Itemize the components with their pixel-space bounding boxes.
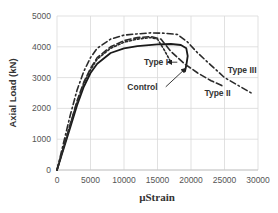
x-tick-label: 5000 — [81, 175, 100, 185]
series-type-iii — [57, 33, 251, 170]
series-control — [57, 44, 188, 170]
y-tick-label: 5000 — [32, 11, 51, 21]
annotation-type-ii: Type II — [204, 88, 230, 98]
annotation-type-i: Type I — [144, 57, 168, 67]
x-tick-label: 15000 — [146, 175, 170, 185]
y-axis-ticks: 010002000300040005000 — [32, 11, 51, 175]
y-tick-label: 0 — [46, 165, 51, 175]
y-tick-label: 3000 — [32, 73, 51, 83]
y-tick-label: 2000 — [32, 103, 51, 113]
annotation-type-iii: Type III — [228, 65, 257, 75]
data-series — [57, 33, 251, 170]
y-tick-label: 1000 — [32, 134, 51, 144]
x-axis-label: µStrain — [139, 191, 175, 203]
x-tick-label: 0 — [55, 175, 60, 185]
x-axis-ticks: 050001000015000200002500030000 — [55, 175, 270, 185]
y-tick-label: 4000 — [32, 42, 51, 52]
x-tick-label: 30000 — [246, 175, 270, 185]
x-tick-label: 20000 — [179, 175, 203, 185]
x-tick-label: 25000 — [213, 175, 237, 185]
y-axis-label: Axial Load (kN) — [7, 58, 18, 127]
annotation-control: Control — [127, 82, 157, 92]
series-type-ii — [57, 37, 225, 170]
axial-load-vs-strain-chart: 010002000300040005000 050001000015000200… — [0, 0, 278, 213]
x-tick-label: 10000 — [112, 175, 136, 185]
